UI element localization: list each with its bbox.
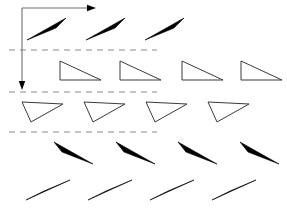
triangle-rows [22, 18, 282, 200]
triangle-3-3-outline [146, 102, 187, 122]
triangle-5-3-filled [150, 180, 194, 200]
triangle-4-2-filled [116, 142, 155, 164]
row-4 [54, 142, 279, 164]
triangle-2-2-outline [120, 61, 161, 80]
triangle-grid-figure [0, 0, 287, 218]
triangle-3-1-outline [22, 102, 63, 122]
triangle-4-4-filled [240, 142, 279, 164]
triangle-2-1-outline [60, 61, 101, 80]
triangle-4-1-filled [54, 142, 93, 164]
triangle-2-4-outline [241, 61, 282, 80]
triangle-3-2-outline [84, 102, 125, 122]
triangle-3-4-outline [208, 102, 249, 122]
triangle-4-3-filled [178, 142, 217, 164]
triangle-5-1-filled [26, 180, 70, 200]
row-1 [27, 18, 184, 40]
row-3 [22, 102, 249, 122]
row-2 [60, 61, 282, 80]
triangle-1-1-filled [27, 18, 66, 40]
triangle-5-2-filled [88, 180, 132, 200]
triangle-2-3-outline [182, 61, 223, 80]
triangle-1-3-filled [145, 18, 184, 40]
y-axis-arrowhead-icon [19, 81, 25, 90]
row-5 [26, 180, 256, 200]
triangle-1-2-filled [86, 18, 125, 40]
figure-canvas [0, 0, 287, 218]
triangle-5-4-filled [212, 180, 256, 200]
x-axis-arrowhead-icon [87, 5, 96, 11]
